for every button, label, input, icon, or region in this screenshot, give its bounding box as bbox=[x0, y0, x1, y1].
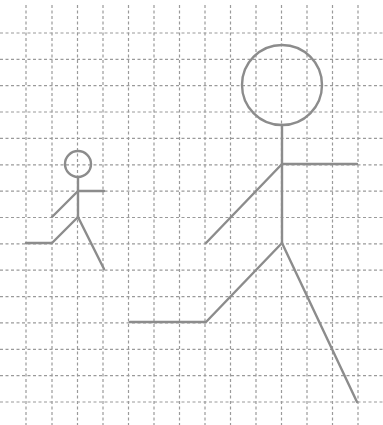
small-stick-figure bbox=[26, 151, 104, 269]
dashed-grid bbox=[0, 5, 383, 425]
limb-line bbox=[52, 191, 78, 217]
grid-canvas bbox=[0, 0, 383, 425]
large-stick-figure bbox=[130, 45, 357, 402]
limb-line bbox=[78, 217, 104, 269]
limb-line bbox=[206, 164, 282, 243]
limb-line bbox=[130, 243, 282, 322]
